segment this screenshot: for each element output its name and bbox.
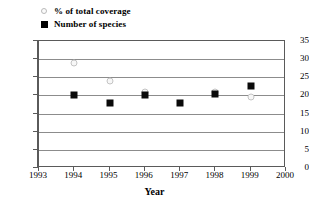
open-circle-marker-icon xyxy=(38,8,50,14)
x-tick-mark xyxy=(214,167,215,171)
x-tick-label: 2000 xyxy=(265,170,305,180)
data-point-coverage xyxy=(106,77,113,84)
plot-area xyxy=(38,40,285,167)
x-tick-label: 1998 xyxy=(194,170,234,180)
data-point-coverage xyxy=(71,59,78,66)
data-point-species xyxy=(71,92,78,99)
x-tick-mark xyxy=(38,167,39,171)
gridline xyxy=(39,77,284,78)
x-tick-mark xyxy=(109,167,110,171)
data-point-species xyxy=(247,83,254,90)
gridline xyxy=(39,150,284,151)
x-tick-mark xyxy=(285,167,286,171)
x-tick-label: 1995 xyxy=(89,170,129,180)
chart-legend: % of total coverage Number of species xyxy=(38,5,131,31)
legend-label-species: Number of species xyxy=(54,19,126,29)
x-tick-label: 1993 xyxy=(18,170,58,180)
x-tick-label: 1994 xyxy=(53,170,93,180)
legend-item-species: Number of species xyxy=(38,18,131,30)
gridline xyxy=(39,132,284,133)
x-tick-mark xyxy=(250,167,251,171)
x-tick-label: 1996 xyxy=(124,170,164,180)
data-point-species xyxy=(177,99,184,106)
x-tick-mark xyxy=(73,167,74,171)
chart-figure: % of total coverage Number of species 05… xyxy=(0,0,309,205)
x-axis-title: Year xyxy=(0,186,309,197)
data-point-species xyxy=(212,90,219,97)
filled-square-marker-icon xyxy=(38,21,50,28)
gridline xyxy=(39,114,284,115)
data-point-species xyxy=(141,92,148,99)
x-tick-label: 1997 xyxy=(159,170,199,180)
data-point-species xyxy=(106,99,113,106)
legend-label-coverage: % of total coverage xyxy=(54,6,131,16)
x-tick-mark xyxy=(179,167,180,171)
data-point-coverage xyxy=(247,94,254,101)
x-tick-label: 1999 xyxy=(230,170,270,180)
legend-item-coverage: % of total coverage xyxy=(38,5,131,17)
x-tick-mark xyxy=(144,167,145,171)
